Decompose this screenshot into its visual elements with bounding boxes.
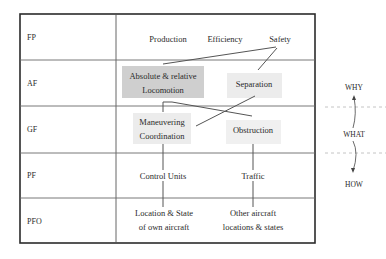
axis-label-what: WHAT bbox=[343, 130, 365, 139]
node-control-units: Control Units bbox=[140, 171, 187, 181]
arrow-up-icon bbox=[353, 97, 355, 128]
node-locomotion-line1: Absolute & relative bbox=[129, 71, 196, 81]
node-production: Production bbox=[149, 34, 187, 44]
row-label-pf: PF bbox=[27, 171, 36, 180]
abstraction-hierarchy-diagram: FP AF GF PF PFO Production Efficiency Sa… bbox=[0, 0, 386, 259]
node-safety: Safety bbox=[269, 34, 291, 44]
why-what-how-axis: WHY WHAT HOW bbox=[325, 83, 386, 189]
node-efficiency: Efficiency bbox=[207, 34, 243, 44]
node-maneuvering-line2: Coordination bbox=[140, 131, 186, 141]
row-label-pfo: PFO bbox=[27, 217, 42, 226]
row-label-af: AF bbox=[27, 79, 38, 88]
node-own-aircraft-line1: Location & State bbox=[135, 208, 193, 218]
arrowhead-up-icon bbox=[352, 95, 356, 100]
node-maneuvering-line1: Maneuvering bbox=[139, 117, 185, 127]
node-locomotion-line2: Locomotion bbox=[142, 85, 184, 95]
axis-label-how: HOW bbox=[345, 180, 364, 189]
row-label-gf: GF bbox=[27, 125, 38, 134]
node-own-aircraft-line2: of own aircraft bbox=[139, 222, 190, 232]
node-obstruction: Obstruction bbox=[233, 125, 274, 135]
node-other-aircraft-line2: locations & states bbox=[223, 222, 283, 232]
node-separation: Separation bbox=[236, 79, 273, 89]
node-other-aircraft-line1: Other aircraft bbox=[230, 208, 277, 218]
arrow-down-icon bbox=[353, 141, 356, 171]
node-traffic: Traffic bbox=[241, 171, 264, 181]
row-label-fp: FP bbox=[27, 33, 36, 42]
axis-label-why: WHY bbox=[345, 83, 363, 92]
arrowhead-down-icon bbox=[351, 168, 355, 173]
